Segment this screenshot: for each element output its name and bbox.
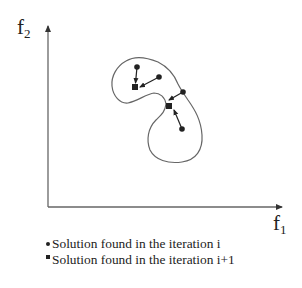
- x-axis-label-text: f: [273, 211, 280, 235]
- iteration-i-plus-1-solutions: [132, 84, 172, 109]
- legend-item-iteration-i-plus-1: Solution found in the iteration i+1: [46, 252, 235, 268]
- square-marker-icon: [46, 255, 50, 259]
- arrow-2: [140, 77, 159, 87]
- legend: Solution found in the iteration i Soluti…: [46, 236, 235, 268]
- solution-circle-icon: [156, 74, 162, 80]
- solution-circle-icon: [134, 64, 140, 70]
- legend-label: Solution found in the iteration i: [52, 236, 220, 252]
- y-axis-label: f2: [17, 17, 31, 40]
- y-axis-label-text: f: [17, 15, 24, 39]
- axes: [48, 26, 282, 207]
- legend-label: Solution found in the iteration i+1: [52, 252, 235, 268]
- legend-item-iteration-i: Solution found in the iteration i: [46, 236, 235, 252]
- solution-square-icon: [132, 84, 138, 90]
- x-axis-label: f1: [273, 213, 287, 236]
- solution-circle-icon: [180, 89, 186, 95]
- circle-marker-icon: [46, 242, 50, 246]
- x-axis-label-subscript: 1: [280, 222, 287, 237]
- arrow-4: [174, 110, 182, 129]
- region-outline: [112, 58, 202, 163]
- solution-square-icon: [166, 103, 172, 109]
- solution-circle-icon: [179, 126, 185, 132]
- y-axis-label-subscript: 2: [24, 26, 31, 41]
